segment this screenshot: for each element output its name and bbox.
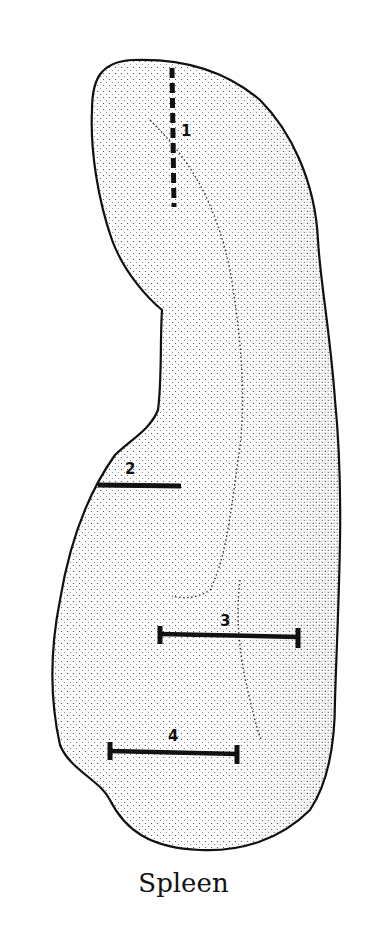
figure-caption: Spleen <box>0 868 367 898</box>
spleen-organ <box>0 0 367 940</box>
measurement-4-label: 4 <box>168 727 178 745</box>
spleen-diagram: 1 2 3 4 <box>0 0 367 940</box>
measurement-2-label: 2 <box>125 460 135 478</box>
measurement-1-label: 1 <box>181 122 191 140</box>
measurement-3-label: 3 <box>220 612 230 630</box>
